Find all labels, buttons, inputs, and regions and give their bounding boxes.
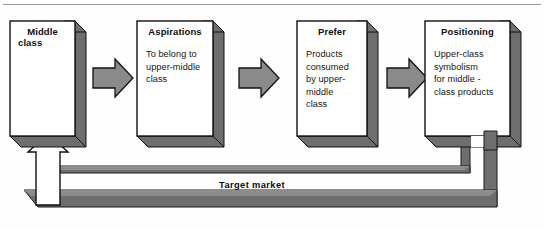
- diagram-canvas: Middle class Aspirations To belong to up…: [0, 0, 544, 229]
- arrow-prefer-to-positioning: [387, 59, 427, 97]
- arrow-middle-to-aspirations: [93, 59, 133, 97]
- box-aspirations[interactable]: [137, 21, 224, 147]
- box-middle-class[interactable]: [10, 21, 86, 147]
- arrow-aspirations-to-prefer: [239, 59, 279, 97]
- feedback-loop-label: Target market: [219, 180, 285, 190]
- box-prefer[interactable]: [297, 21, 378, 147]
- flow-diagram-graphics: [0, 0, 544, 229]
- box-positioning[interactable]: [425, 21, 521, 147]
- feedback-path-inner: [48, 131, 470, 173]
